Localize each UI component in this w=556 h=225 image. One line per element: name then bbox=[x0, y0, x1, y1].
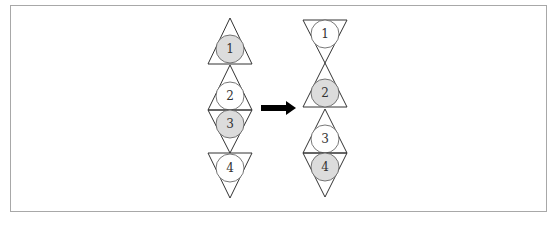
before-item-1: 1 bbox=[208, 18, 252, 64]
after-item-3: 3 bbox=[303, 109, 347, 153]
before-item-4: 4 bbox=[208, 153, 252, 198]
circle-label: 1 bbox=[226, 42, 234, 56]
before-item-3: 3 bbox=[208, 110, 252, 153]
circle-label: 2 bbox=[226, 89, 234, 103]
circle-label: 3 bbox=[226, 117, 234, 131]
before-stack: 1 2 3 4 bbox=[208, 18, 252, 198]
after-item-1: 1 bbox=[303, 20, 347, 63]
circle-label: 1 bbox=[321, 27, 329, 41]
circle-label: 2 bbox=[321, 86, 329, 100]
circle-label: 4 bbox=[321, 160, 329, 174]
after-item-4: 4 bbox=[303, 153, 347, 197]
circle-label: 4 bbox=[226, 161, 234, 175]
after-stack: 1 2 3 4 bbox=[303, 20, 347, 197]
arrow-right-icon bbox=[261, 101, 296, 115]
circle-label: 3 bbox=[321, 132, 329, 146]
triangle-rearrangement-diagram: 1 2 3 4 1 2 bbox=[0, 0, 556, 225]
before-item-2: 2 bbox=[208, 65, 252, 110]
after-item-2: 2 bbox=[303, 63, 347, 107]
